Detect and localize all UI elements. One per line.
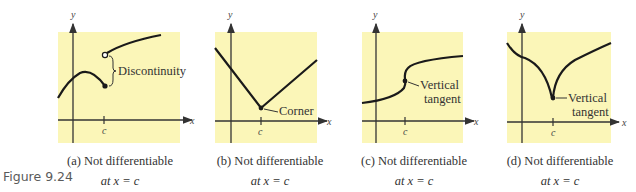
x-axis-label: x [189,115,195,126]
caption-a-line1: (a) Not differentiable [40,151,200,171]
annotation-tangent: tangent [572,105,609,119]
caption-d-line2: at x = c [480,171,636,191]
cusp-point [551,96,556,101]
x-axis-label: x [326,116,332,127]
panel-a: x y c Discontinuity [58,9,195,143]
annotation-vertical: Vertical [568,91,607,105]
open-point [102,52,107,57]
caption-a: (a) Not differentiable at x = c [40,151,200,191]
annotation-vertical: Vertical [420,78,459,92]
caption-b-line1: (b) Not differentiable [190,151,350,171]
x-axis-label: x [473,116,479,127]
caption-d-line1: (d) Not differentiable [480,151,636,171]
tick-label-c: c [102,125,107,136]
tick-label-c: c [551,127,556,138]
caption-d: (d) Not differentiable at x = c [480,151,636,191]
x-axis-label: x [621,117,627,128]
caption-c-line2: at x = c [334,171,494,191]
caption-a-line2: at x = c [40,171,200,191]
annotation-corner: Corner [279,104,315,118]
caption-b: (b) Not differentiable at x = c [190,151,350,191]
y-axis-label: y [227,9,233,20]
tick-label-c: c [403,126,408,137]
tangent-point [403,79,408,84]
panel-a-background [58,32,180,143]
closed-point [102,83,107,88]
caption-b-line2: at x = c [190,171,350,191]
panel-d: x y c Vertical tangent [507,9,627,143]
panel-b: x y c Corner [215,9,332,143]
panel-b-background [215,32,317,143]
caption-c-line1: (c) Not differentiable [334,151,494,171]
annotation-tangent: tangent [424,92,461,106]
y-axis-label: y [70,9,76,20]
y-axis-label: y [372,9,378,20]
caption-c: (c) Not differentiable at x = c [334,151,494,191]
tick-label-c: c [258,126,263,137]
annotation-discontinuity: Discontinuity [118,64,187,78]
panel-c: x y c Vertical tangent [362,9,479,143]
y-axis-label: y [519,9,525,20]
corner-point [259,106,264,111]
